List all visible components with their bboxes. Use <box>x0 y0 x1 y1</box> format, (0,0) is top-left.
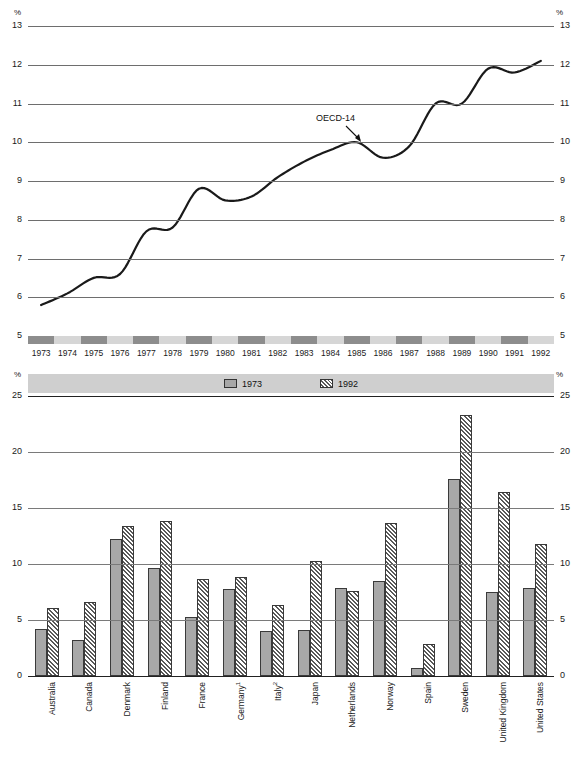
year-label-1988: 1988 <box>422 346 448 360</box>
bar-group-united-kingdom <box>479 396 517 676</box>
bar-1973-united-kingdom <box>486 592 498 676</box>
bar-ytick-right-10: 10 <box>560 558 580 568</box>
bar-1992-japan <box>310 561 322 676</box>
year-band-segment-1989 <box>449 336 475 344</box>
bar-1992-germany <box>235 577 247 676</box>
bar-1973-canada <box>72 640 84 676</box>
bar-gridline-5 <box>28 620 554 621</box>
line-ytick-left-5: 5 <box>2 330 22 340</box>
line-ytick-right-6: 6 <box>560 291 580 301</box>
line-ytick-right-11: 11 <box>560 98 580 108</box>
bar-group-italy <box>253 396 291 676</box>
bar-chart-unit-left: % <box>14 370 21 379</box>
bar-groups-container <box>28 396 554 676</box>
bar-1973-germany <box>223 589 235 676</box>
line-chart-section: % % 13131212111110109988776655 OECD-14 1… <box>0 0 582 362</box>
bar-ytick-right-25: 25 <box>560 390 580 400</box>
bar-group-netherlands <box>329 396 367 676</box>
bar-1992-italy <box>272 605 284 676</box>
year-band-strip <box>28 336 554 344</box>
year-label-1977: 1977 <box>133 346 159 360</box>
year-label-1974: 1974 <box>54 346 80 360</box>
bar-1973-norway <box>373 581 385 676</box>
bar-1992-finland <box>160 521 172 676</box>
country-label-germany: Germany1 <box>235 682 246 720</box>
year-label-1973: 1973 <box>28 346 54 360</box>
year-band-segment-1988 <box>422 336 448 344</box>
bar-1992-denmark <box>122 526 134 676</box>
bar-chart-section: % % 25252020151510105500 AustraliaCanada… <box>0 366 582 775</box>
year-band-segment-1980 <box>212 336 238 344</box>
country-label-italy: Italy2 <box>272 682 283 701</box>
bar-ytick-left-20: 20 <box>2 446 22 456</box>
country-cell-spain: Spain <box>404 680 442 772</box>
line-gridline-12 <box>28 65 554 66</box>
bar-ytick-right-15: 15 <box>560 502 580 512</box>
year-label-1985: 1985 <box>344 346 370 360</box>
year-label-1990: 1990 <box>475 346 501 360</box>
year-label-1981: 1981 <box>238 346 264 360</box>
bar-1973-australia <box>35 629 47 676</box>
bar-gridline-20 <box>28 452 554 453</box>
year-label-1987: 1987 <box>396 346 422 360</box>
year-band-segment-1982 <box>265 336 291 344</box>
bar-1973-spain <box>411 668 423 676</box>
bar-1973-denmark <box>110 539 122 676</box>
bar-chart-plot-area: 25252020151510105500 <box>28 396 554 676</box>
year-label-1982: 1982 <box>265 346 291 360</box>
country-cell-netherlands: Netherlands <box>329 680 367 772</box>
year-band-segment-1979 <box>186 336 212 344</box>
country-cell-germany: Germany1 <box>216 680 254 772</box>
country-label-denmark: Denmark <box>122 682 132 716</box>
bar-gridline-0 <box>28 676 554 677</box>
bar-group-germany <box>216 396 254 676</box>
line-gridline-6 <box>28 297 554 298</box>
line-ytick-left-8: 8 <box>2 214 22 224</box>
line-ytick-left-7: 7 <box>2 253 22 263</box>
bar-gridline-10 <box>28 564 554 565</box>
line-ytick-left-9: 9 <box>2 175 22 185</box>
bar-group-canada <box>66 396 104 676</box>
bar-ytick-left-10: 10 <box>2 558 22 568</box>
line-ytick-left-10: 10 <box>2 136 22 146</box>
bar-group-france <box>178 396 216 676</box>
year-band-segment-1976 <box>107 336 133 344</box>
bar-1973-italy <box>260 631 272 676</box>
country-cell-italy: Italy2 <box>253 680 291 772</box>
year-band-segment-1985 <box>344 336 370 344</box>
bar-group-sweden <box>441 396 479 676</box>
bar-1992-france <box>197 579 209 676</box>
line-ytick-left-6: 6 <box>2 291 22 301</box>
country-cell-australia: Australia <box>28 680 66 772</box>
country-cell-sweden: Sweden <box>441 680 479 772</box>
bar-gridline-15 <box>28 508 554 509</box>
country-cell-denmark: Denmark <box>103 680 141 772</box>
bar-1973-japan <box>298 630 310 676</box>
bar-group-spain <box>404 396 442 676</box>
year-label-1991: 1991 <box>501 346 527 360</box>
bar-group-australia <box>28 396 66 676</box>
bar-1973-finland <box>148 568 160 676</box>
year-label-1989: 1989 <box>449 346 475 360</box>
line-ytick-left-12: 12 <box>2 59 22 69</box>
bar-1992-united-kingdom <box>498 492 510 676</box>
year-band-segment-1987 <box>396 336 422 344</box>
year-band-segment-1978 <box>159 336 185 344</box>
year-band-segment-1991 <box>501 336 527 344</box>
year-band-segment-1975 <box>81 336 107 344</box>
line-gridline-7 <box>28 259 554 260</box>
country-label-united-kingdom: United Kingdom <box>498 682 508 742</box>
line-ytick-right-9: 9 <box>560 175 580 185</box>
country-cell-norway: Norway <box>366 680 404 772</box>
bar-ytick-left-5: 5 <box>2 614 22 624</box>
year-label-1986: 1986 <box>370 346 396 360</box>
line-gridline-11 <box>28 104 554 105</box>
bar-1992-sweden <box>460 415 472 676</box>
line-chart-unit-right: % <box>556 8 563 17</box>
year-band-segment-1973 <box>28 336 54 344</box>
country-label-france: France <box>197 682 207 708</box>
bar-1992-netherlands <box>347 591 359 676</box>
line-gridline-13 <box>28 26 554 27</box>
bar-1992-norway <box>385 523 397 676</box>
year-band-segment-1986 <box>370 336 396 344</box>
